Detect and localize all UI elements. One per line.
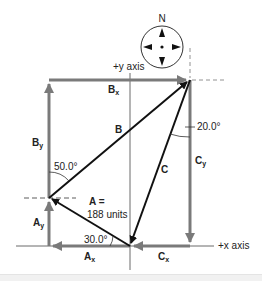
component-Cx-label: Cx — [158, 251, 169, 263]
compass-north-label: N — [158, 13, 165, 24]
component-Ay-label: Ay — [33, 217, 44, 230]
vector-A-magnitude: 188 units — [87, 209, 128, 220]
angle-C-label: 20.0° — [197, 121, 220, 132]
vector-B-label: B — [115, 124, 122, 135]
footer-band — [0, 274, 262, 281]
vector-C-label: C — [161, 164, 168, 175]
component-Bx-label: Bx — [108, 84, 119, 96]
component-By-label: By — [32, 137, 43, 150]
x-axis-label: +x axis — [218, 240, 249, 251]
vector-A-label: A = — [89, 196, 105, 207]
angle-A-label: 30.0° — [84, 234, 107, 245]
angle-arc-C — [170, 134, 190, 137]
y-axis-label: +y axis — [113, 61, 144, 72]
component-Ax-label: Ax — [84, 251, 95, 263]
compass-icon: N — [141, 13, 183, 68]
angle-arc-B — [49, 172, 69, 181]
angle-B-label: 50.0° — [54, 161, 77, 172]
vector-B — [49, 82, 187, 198]
component-Cy-label: Cy — [195, 155, 206, 168]
